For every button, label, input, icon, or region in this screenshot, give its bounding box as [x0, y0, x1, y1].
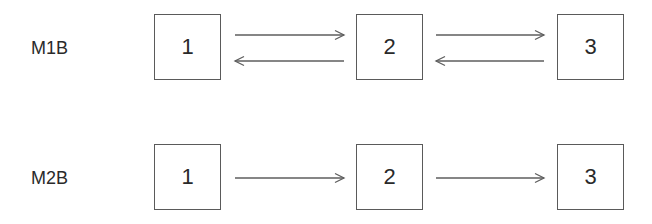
m1b-arrow-1-to-2-icon: [235, 31, 344, 40]
m1b-arrow-2-to-3-icon: [436, 31, 544, 40]
m2b-arrow-2-to-3-icon: [436, 174, 544, 183]
transition-arrows: [0, 0, 652, 224]
m1b-arrow-3-to-2-icon: [436, 57, 544, 66]
m2b-arrow-1-to-2-icon: [235, 174, 344, 183]
state-transition-diagram: M1B 1 2 3 M2B 1 2 3: [0, 0, 652, 224]
m1b-arrow-2-to-1-icon: [235, 57, 344, 66]
